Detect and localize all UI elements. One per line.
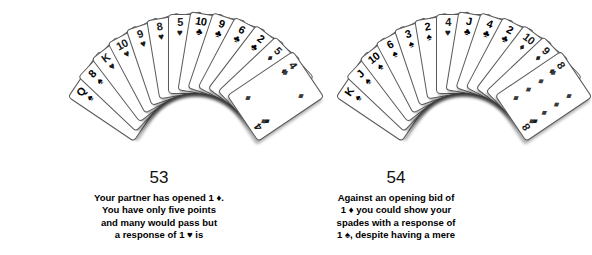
card-pip-diamonds-icon: ♦	[510, 92, 522, 103]
caption-text-53: Your partner has opened 1 ♦.You have onl…	[44, 192, 274, 242]
card-corner-index: 2♠	[419, 20, 438, 42]
card-corner-index: 8♥	[151, 20, 170, 42]
card-pip-diamonds-icon: ♦	[551, 99, 563, 110]
caption-line: Against an opening bid of	[281, 192, 511, 204]
card-pip-diamonds-icon: ♦	[279, 67, 291, 78]
caption-line: You have only five points	[44, 204, 274, 216]
caption-hand-53: 53 Your partner has opened 1 ♦.You have …	[44, 168, 274, 242]
card-pip-diamonds-icon: ♦	[538, 107, 550, 118]
card-pip-diamonds-icon: ♦	[563, 90, 575, 101]
card-pip-diamonds-icon: ♦	[547, 67, 559, 78]
caption-text-54: Against an opening bid of1 ♦ you could s…	[281, 192, 511, 242]
caption-number-53: 53	[44, 168, 274, 188]
side-section-tab: responses	[510, 148, 532, 255]
caption-line: 1 ♠, despite having a mere	[281, 229, 511, 241]
card-pip-diamonds-icon: ♦	[523, 84, 535, 95]
caption-line: a response of 1 ♥ is	[44, 229, 274, 241]
card-pip-diamonds-icon: ♦	[242, 92, 254, 103]
caption-number-54: 54	[281, 168, 511, 188]
card-pip-diamonds-icon: ♦	[295, 90, 307, 101]
caption-hand-54: 54 Against an opening bid of1 ♦ you coul…	[281, 168, 511, 242]
caption-line: Your partner has opened 1 ♦.	[44, 192, 274, 204]
caption-line: spades with a response of	[281, 217, 511, 229]
caption-line: 1 ♦ you could show your	[281, 204, 511, 216]
card-pip-diamonds-icon: ♦	[535, 76, 547, 87]
caption-line: and many would pass but	[44, 217, 274, 229]
